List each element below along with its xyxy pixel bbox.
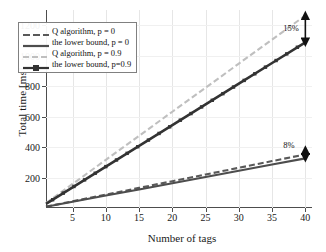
x-tick-label: 15 bbox=[134, 212, 144, 223]
y-tick-label: 200 bbox=[25, 172, 40, 183]
legend-swatch-dashed-dark bbox=[23, 26, 49, 36]
legend-item: the lower bound, p = 0 bbox=[23, 37, 131, 47]
legend-item: Q algorithm, p = 0.9 bbox=[23, 48, 131, 58]
x-axis-title: Number of tags bbox=[46, 232, 318, 244]
x-tick-label: 35 bbox=[267, 212, 277, 223]
chart-legend: Q algorithm, p = 0 the lower bound, p = … bbox=[18, 22, 137, 73]
y-tick-label: 800 bbox=[25, 81, 40, 92]
x-tick-label: 40 bbox=[300, 212, 310, 223]
x-tick-label: 25 bbox=[201, 212, 211, 223]
legend-label: Q algorithm, p = 0 bbox=[52, 26, 115, 36]
x-tick-label: 30 bbox=[234, 212, 244, 223]
legend-item: Q algorithm, p = 0 bbox=[23, 26, 131, 36]
legend-label: Q algorithm, p = 0.9 bbox=[52, 48, 121, 58]
chart-figure: Total time [ms] Number of tags 510152025… bbox=[0, 0, 326, 252]
legend-swatch-solid-marker bbox=[23, 59, 49, 69]
legend-label: the lower bound, p = 0 bbox=[52, 37, 129, 47]
x-tick-label: 5 bbox=[70, 212, 75, 223]
legend-swatch-solid-dark bbox=[23, 37, 49, 47]
x-tick-label: 20 bbox=[167, 212, 177, 223]
legend-label: the lower bound, p=0.9 bbox=[52, 59, 131, 69]
legend-swatch-dashed-light bbox=[23, 48, 49, 58]
y-tick-label: 600 bbox=[25, 111, 40, 122]
x-tick-label: 10 bbox=[101, 212, 111, 223]
y-tick-label: 400 bbox=[25, 142, 40, 153]
annotation-label-lower: 8% bbox=[283, 140, 294, 150]
annotation-label-upper: 15% bbox=[283, 23, 299, 33]
legend-item: the lower bound, p=0.9 bbox=[23, 59, 131, 69]
